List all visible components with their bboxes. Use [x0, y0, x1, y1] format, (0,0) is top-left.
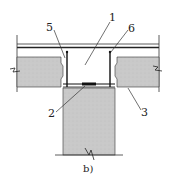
left-precast-block — [10, 57, 63, 87]
label-6: 6 — [128, 22, 135, 35]
column — [55, 88, 123, 160]
structural-joint-diagram: 5 1 6 2 3 b) — [0, 0, 172, 183]
label-3: 3 — [141, 106, 148, 119]
label-1: 1 — [109, 11, 116, 24]
connector-plate — [82, 83, 96, 86]
label-5: 5 — [46, 21, 53, 34]
right-precast-block — [115, 57, 162, 87]
label-2: 2 — [48, 107, 55, 120]
figure-caption: b) — [83, 163, 93, 174]
rebars — [63, 51, 115, 87]
